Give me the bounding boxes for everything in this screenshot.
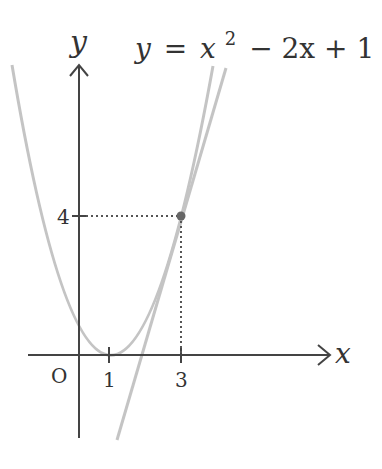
x-tick-label-3: 3 bbox=[175, 368, 188, 392]
graph: y x O 1 3 4 y = x 2 − 2x + 1 bbox=[0, 0, 382, 469]
tangent-point bbox=[177, 212, 186, 221]
equation-label: y = x 2 − 2x + 1 bbox=[133, 19, 374, 65]
y-axis-label: y bbox=[68, 24, 88, 59]
x-axis-label: x bbox=[335, 337, 351, 370]
x-tick-label-1: 1 bbox=[103, 368, 116, 392]
tangent-line bbox=[117, 68, 226, 440]
origin-label: O bbox=[51, 364, 67, 388]
y-tick-label-4: 4 bbox=[57, 205, 70, 229]
